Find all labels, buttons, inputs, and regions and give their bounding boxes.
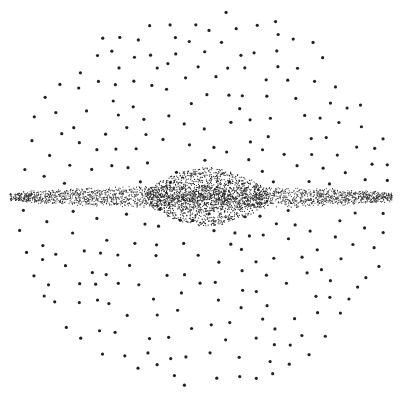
galaxy-illustration <box>0 0 404 395</box>
